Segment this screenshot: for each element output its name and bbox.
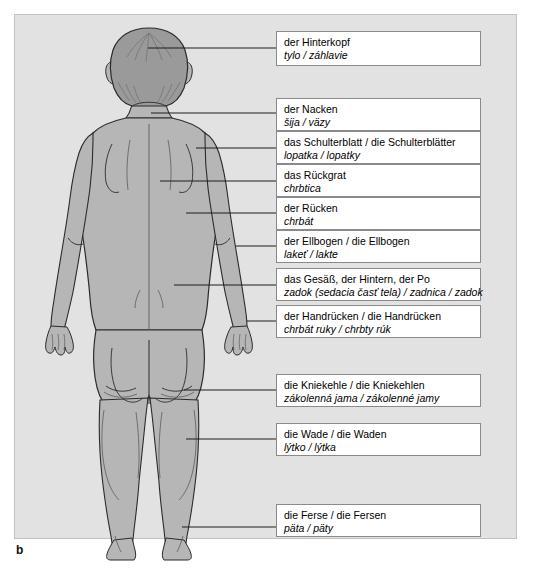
label-german-ellbogen: der Ellbogen / die Ellbogen (284, 235, 473, 248)
label-slovak-wade: lýtko / lýtka (284, 441, 473, 454)
label-box-ruecken: der Rückenchrbát (276, 197, 481, 230)
label-german-ferse: die Ferse / die Fersen (284, 509, 473, 522)
label-slovak-hinterkopf: tylo / záhlavie (284, 49, 473, 62)
label-german-handruecken: der Handrücken / die Handrücken (284, 310, 473, 323)
label-german-schulterblatt: das Schulterblatt / die Schulterblätter (284, 136, 473, 149)
label-slovak-rueckgrat: chrbtica (284, 182, 473, 195)
label-german-kniekehle: die Kniekehle / die Kniekehlen (284, 379, 473, 392)
label-box-hinterkopf: der Hinterkopftylo / záhlavie (276, 31, 481, 66)
label-box-rueckgrat: das Rückgratchrbtica (276, 164, 481, 197)
label-german-gesaess: das Gesäß, der Hintern, der Po (284, 273, 473, 286)
label-slovak-nacken: šija / väzy (284, 116, 473, 129)
label-slovak-gesaess: zadok (sedacia časť tela) / zadnica / za… (284, 286, 473, 299)
label-box-handruecken: der Handrücken / die Handrückenchrbát ru… (276, 305, 481, 338)
label-box-gesaess: das Gesäß, der Hintern, der Pozadok (sed… (276, 268, 481, 301)
label-slovak-ferse: päta / päty (284, 522, 473, 535)
label-german-hinterkopf: der Hinterkopf (284, 36, 473, 49)
label-box-ferse: die Ferse / die Fersenpäta / päty (276, 504, 481, 537)
label-box-kniekehle: die Kniekehle / die Kniekehlenzákolenná … (276, 374, 481, 407)
label-slovak-ruecken: chrbát (284, 215, 473, 228)
label-slovak-schulterblatt: lopatka / lopatky (284, 149, 473, 162)
label-slovak-kniekehle: zákolenná jama / zákolenné jamy (284, 392, 473, 405)
label-box-schulterblatt: das Schulterblatt / die Schulterblätterl… (276, 131, 481, 164)
label-german-nacken: der Nacken (284, 103, 473, 116)
label-german-wade: die Wade / die Waden (284, 428, 473, 441)
label-slovak-ellbogen: lakeť / lakte (284, 248, 473, 261)
figure-caption: b (16, 543, 23, 557)
label-box-wade: die Wade / die Wadenlýtko / lýtka (276, 423, 481, 456)
label-box-nacken: der Nackenšija / väzy (276, 98, 481, 131)
label-slovak-handruecken: chrbát ruky / chrbty rúk (284, 323, 473, 336)
label-german-rueckgrat: das Rückgrat (284, 169, 473, 182)
label-box-ellbogen: der Ellbogen / die Ellbogenlakeť / lakte (276, 230, 481, 263)
label-german-ruecken: der Rücken (284, 202, 473, 215)
